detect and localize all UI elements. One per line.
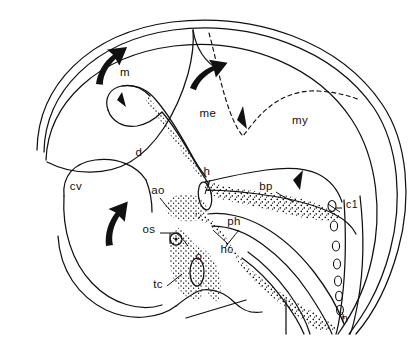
arrowhead-diencephalon	[117, 92, 126, 107]
label-cv: cv	[70, 180, 82, 192]
arrowhead-metencephalon	[237, 106, 247, 129]
label-c1: c1	[346, 198, 358, 210]
brain-dashed-boundary	[209, 33, 360, 136]
label-h: h	[204, 165, 211, 177]
label-d: d	[136, 146, 143, 158]
optic-vesicle-center	[174, 237, 177, 240]
label-ao: ao	[151, 184, 165, 196]
label-my: my	[292, 114, 308, 126]
label-n: n	[342, 312, 349, 324]
label-bp: bp	[259, 180, 273, 192]
forebrain-boundary	[47, 30, 219, 172]
arrow-cerebral-vesicle	[95, 201, 139, 247]
label-tc: tc	[153, 278, 163, 290]
label-ph: ph	[227, 215, 241, 227]
label-os: os	[143, 223, 156, 235]
embryo-sagittal-diagram: m me my d cv h bp ao c1 os ph hc o tc n	[0, 0, 420, 337]
arrowhead-bulbus	[293, 170, 303, 190]
label-m: m	[120, 66, 130, 78]
pharynx-outline	[208, 214, 344, 335]
label-me: me	[200, 107, 217, 119]
label-o: o	[196, 250, 203, 262]
figure-canvas: m me my d cv h bp ao c1 os ph hc o tc n	[0, 0, 420, 337]
mesenchyme-stipple	[145, 96, 342, 330]
label-hc: hc	[221, 243, 234, 255]
